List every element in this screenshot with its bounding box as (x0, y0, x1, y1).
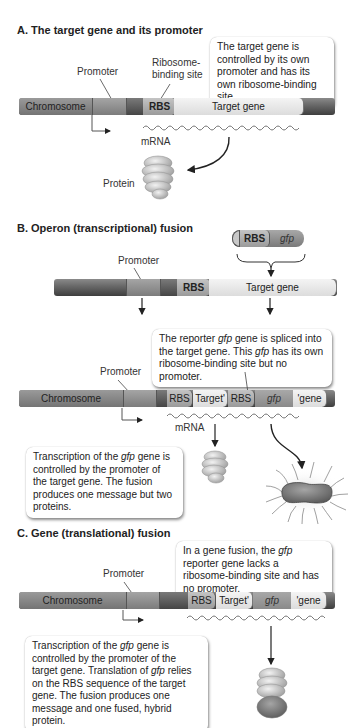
section-c-transcription (0, 0, 351, 728)
section-c-callout-bottom: Transcription of the gfp gene is control… (25, 636, 208, 728)
hybrid-protein-icon (248, 665, 296, 723)
